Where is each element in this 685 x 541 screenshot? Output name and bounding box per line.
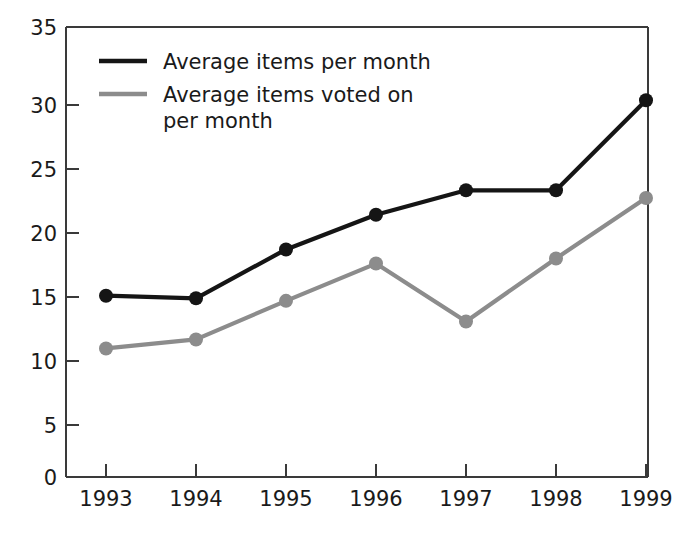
data-point-secondary-1996 <box>369 257 383 271</box>
chart-canvas: 35 30 25 20 15 10 5 0 1993 1994 1995 199… <box>0 0 685 541</box>
x-tick-label-1993: 1993 <box>79 487 132 511</box>
data-point-primary-1993 <box>99 289 113 303</box>
x-tick-label-1998: 1998 <box>529 487 582 511</box>
x-axis-tick-labels: 1993 1994 1995 1996 1997 1998 1999 <box>79 487 672 511</box>
y-tick-label-30: 30 <box>30 94 57 118</box>
legend-label-secondary-line2: per month <box>163 109 273 133</box>
data-point-secondary-1993 <box>99 341 113 355</box>
x-axis-ticks <box>106 464 646 477</box>
data-point-primary-1999 <box>639 93 653 107</box>
y-axis-tick-labels: 35 30 25 20 15 10 5 0 <box>30 16 57 490</box>
legend-label-primary: Average items per month <box>163 50 431 74</box>
y-axis-ticks <box>66 27 79 477</box>
line-chart: 35 30 25 20 15 10 5 0 1993 1994 1995 199… <box>0 0 685 541</box>
data-point-primary-1997 <box>459 183 473 197</box>
data-point-secondary-1999 <box>639 191 653 205</box>
data-point-secondary-1998 <box>549 251 563 265</box>
y-tick-label-25: 25 <box>30 158 57 182</box>
y-tick-label-15: 15 <box>30 286 57 310</box>
data-point-primary-1995 <box>279 242 293 256</box>
y-tick-label-5: 5 <box>44 414 57 438</box>
data-point-primary-1996 <box>369 208 383 222</box>
data-point-primary-1998 <box>549 183 563 197</box>
x-tick-label-1996: 1996 <box>349 487 402 511</box>
x-tick-label-1999: 1999 <box>619 487 672 511</box>
y-tick-label-0: 0 <box>44 466 57 490</box>
data-point-secondary-1995 <box>279 294 293 308</box>
data-point-primary-1994 <box>189 291 203 305</box>
x-tick-label-1995: 1995 <box>259 487 312 511</box>
x-tick-label-1997: 1997 <box>439 487 492 511</box>
y-tick-label-20: 20 <box>30 222 57 246</box>
data-point-secondary-1997 <box>459 314 473 328</box>
y-tick-label-10: 10 <box>30 350 57 374</box>
data-point-secondary-1994 <box>189 332 203 346</box>
legend-label-secondary-line1: Average items voted on <box>163 83 414 107</box>
chart-legend: Average items per month Average items vo… <box>99 50 431 133</box>
y-tick-label-35: 35 <box>30 16 57 40</box>
x-tick-label-1994: 1994 <box>169 487 222 511</box>
